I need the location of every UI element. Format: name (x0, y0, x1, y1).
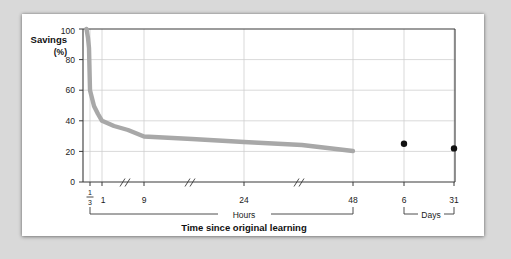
y-tick-marks (79, 29, 83, 182)
x-tick-marks (90, 182, 454, 186)
hours-group-bracket (90, 207, 353, 214)
figure-card: 0 20 40 60 80 100 Savings (%) (22, 14, 484, 236)
page-background: 0 20 40 60 80 100 Savings (%) (0, 0, 511, 259)
y-tick-label-0: 0 (70, 177, 75, 187)
y-tick-label-40: 40 (66, 116, 76, 126)
x-tick-label-1: 1 (101, 195, 106, 205)
x-tick-label-24: 24 (239, 195, 249, 205)
days-group-label: Days (421, 210, 440, 220)
x-tick-label-one-third: 1 3 (87, 189, 94, 206)
hours-group-label: Hours (233, 210, 256, 220)
x-tick-label-6-days: 6 (402, 195, 407, 205)
plot-area-background (83, 29, 455, 182)
y-tick-label-60: 60 (66, 85, 76, 95)
y-axis-label: Savings (31, 34, 67, 45)
x-axis-title: Time since original learning (181, 222, 307, 233)
x-tick-label-48: 48 (348, 195, 358, 205)
chart-svg: 0 20 40 60 80 100 Savings (%) (22, 14, 484, 236)
y-tick-label-20: 20 (66, 147, 76, 157)
data-point-31-days (451, 145, 457, 151)
fraction-numerator: 1 (88, 189, 92, 196)
fraction-denominator: 3 (88, 199, 92, 206)
x-tick-label-31-days: 31 (449, 195, 459, 205)
x-tick-label-9: 9 (142, 195, 147, 205)
forgetting-curve-chart: 0 20 40 60 80 100 Savings (%) (22, 14, 484, 236)
y-axis-unit-label: (%) (54, 47, 67, 57)
data-point-6-days (401, 141, 407, 147)
